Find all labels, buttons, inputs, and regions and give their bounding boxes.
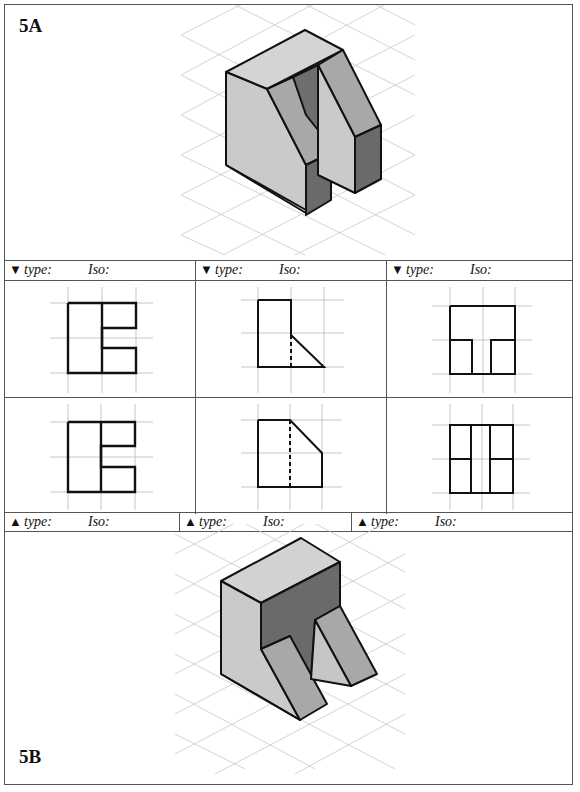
- view-cell-1-2: [195, 281, 386, 397]
- view-label-cell: ▼ type: Iso:: [5, 261, 195, 280]
- view-cell-1-1: [5, 281, 195, 397]
- view-cell-1-3: [386, 281, 572, 397]
- worksheet: 5A: [4, 4, 573, 785]
- iso-label: Iso:: [470, 262, 492, 278]
- view-cell-2-1: [5, 398, 195, 514]
- isometric-figure-5a: [5, 5, 574, 261]
- arrow-down-icon: ▼: [391, 262, 404, 278]
- problem-5b-panel: 5B: [5, 524, 572, 784]
- iso-label: Iso:: [88, 262, 110, 278]
- view-cell-2-2: [195, 398, 386, 514]
- orthographic-views-row-1: [5, 281, 572, 398]
- orthographic-views-row-2: [5, 398, 572, 514]
- view-label-row-top: ▼ type: Iso: ▼ type: Iso: ▼ type: Iso:: [5, 261, 572, 281]
- problem-label-5b: 5B: [19, 746, 41, 768]
- problem-5a-panel: 5A: [5, 5, 572, 261]
- type-label: type:: [24, 262, 52, 278]
- arrow-down-icon: ▼: [9, 262, 22, 278]
- type-label: type:: [406, 262, 434, 278]
- view-label-cell: ▼ type: Iso:: [386, 261, 572, 280]
- type-label: type:: [215, 262, 243, 278]
- isometric-figure-5b: [5, 524, 574, 784]
- view-label-cell: ▼ type: Iso:: [195, 261, 386, 280]
- iso-label: Iso:: [279, 262, 301, 278]
- arrow-down-icon: ▼: [200, 262, 213, 278]
- view-cell-2-3: [386, 398, 572, 514]
